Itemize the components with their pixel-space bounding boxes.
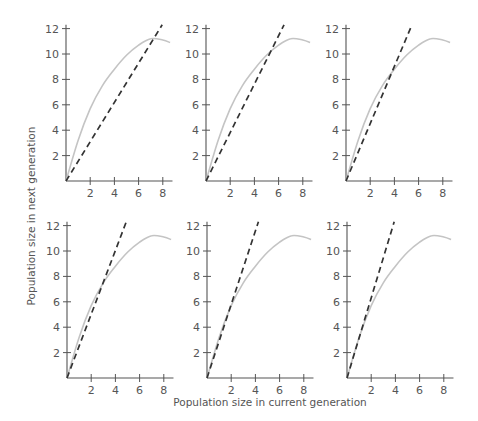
x-tick-label: 8 (159, 187, 166, 200)
x-tick-label: 2 (368, 384, 375, 397)
x-tick-label: 6 (416, 384, 423, 397)
y-tick-label: 10 (325, 48, 339, 61)
y-tick-label: 10 (45, 48, 59, 61)
x-tick-label: 8 (299, 187, 306, 200)
y-tick-label: 10 (326, 245, 340, 258)
panel-1: 246824681012 (45, 23, 172, 200)
y-tick-label: 8 (333, 270, 340, 283)
replacement-dashed-line (346, 25, 412, 181)
replacement-dashed-line (66, 25, 162, 181)
x-tick-label: 8 (439, 187, 446, 200)
x-tick-label: 4 (391, 187, 398, 200)
y-axis-title: Population size in next generation (25, 127, 37, 306)
x-tick-label: 6 (275, 187, 282, 200)
y-tick-label: 12 (185, 23, 199, 36)
replacement-dashed-line (347, 222, 394, 378)
recruitment-curve (67, 236, 171, 378)
recruitment-curve (347, 236, 451, 378)
panel-5: 246824681012 (186, 220, 313, 397)
y-tick-label: 10 (186, 245, 200, 258)
y-tick-label: 4 (193, 321, 200, 334)
x-tick-label: 8 (160, 384, 167, 397)
y-tick-label: 4 (52, 124, 59, 137)
y-tick-label: 2 (333, 347, 340, 360)
y-tick-label: 12 (326, 220, 340, 233)
x-tick-label: 2 (88, 384, 95, 397)
x-tick-label: 4 (251, 187, 258, 200)
y-tick-label: 8 (193, 270, 200, 283)
y-tick-label: 8 (192, 73, 199, 86)
small-multiples-figure: 2468246810122468246810122468246810122468… (0, 0, 478, 421)
y-tick-label: 8 (332, 73, 339, 86)
x-tick-label: 4 (392, 384, 399, 397)
y-tick-label: 4 (192, 124, 199, 137)
y-tick-label: 12 (45, 23, 59, 36)
y-tick-label: 8 (53, 270, 60, 283)
y-tick-label: 4 (332, 124, 339, 137)
recruitment-curve (66, 39, 170, 181)
y-tick-label: 2 (53, 347, 60, 360)
x-tick-label: 8 (440, 384, 447, 397)
x-tick-label: 2 (227, 187, 234, 200)
y-tick-label: 10 (46, 245, 60, 258)
x-tick-label: 6 (135, 187, 142, 200)
recruitment-curve (207, 236, 311, 378)
panel-6: 246824681012 (326, 220, 453, 397)
y-tick-label: 12 (46, 220, 60, 233)
y-tick-label: 4 (333, 321, 340, 334)
x-tick-label: 6 (136, 384, 143, 397)
panels-group: 2468246810122468246810122468246810122468… (45, 23, 453, 397)
panel-2: 246824681012 (185, 23, 312, 200)
y-tick-label: 8 (52, 73, 59, 86)
panel-3: 246824681012 (325, 23, 452, 200)
y-tick-label: 6 (193, 296, 200, 309)
recruitment-curve (346, 39, 450, 181)
y-tick-label: 2 (52, 150, 59, 163)
recruitment-curve (206, 39, 310, 181)
y-tick-label: 10 (185, 48, 199, 61)
panel-4: 246824681012 (46, 220, 173, 397)
x-tick-label: 4 (111, 187, 118, 200)
y-tick-label: 12 (325, 23, 339, 36)
y-tick-label: 2 (192, 150, 199, 163)
x-tick-label: 6 (415, 187, 422, 200)
x-tick-label: 2 (87, 187, 94, 200)
y-tick-label: 6 (52, 99, 59, 112)
y-tick-label: 6 (53, 296, 60, 309)
replacement-dashed-line (207, 222, 258, 378)
replacement-dashed-line (67, 222, 126, 378)
x-tick-label: 2 (367, 187, 374, 200)
y-tick-label: 6 (333, 296, 340, 309)
y-tick-label: 12 (186, 220, 200, 233)
x-tick-label: 4 (112, 384, 119, 397)
y-tick-label: 4 (53, 321, 60, 334)
replacement-dashed-line (206, 25, 284, 181)
y-tick-label: 2 (193, 347, 200, 360)
y-tick-label: 2 (332, 150, 339, 163)
y-tick-label: 6 (332, 99, 339, 112)
y-tick-label: 6 (192, 99, 199, 112)
x-axis-title: Population size in current generation (173, 396, 366, 408)
